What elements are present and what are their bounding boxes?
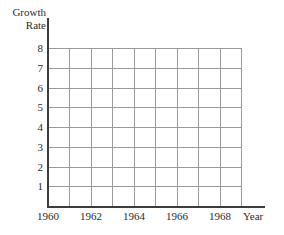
y-axis-tick-label: 6	[3, 83, 43, 94]
x-axis-tick-label: 1964	[112, 210, 156, 222]
y-axis-tick-label: 2	[3, 162, 43, 173]
x-axis-tick-label: 1968	[198, 210, 242, 222]
x-axis-title: Year	[243, 210, 263, 222]
gridline-horizontal	[48, 167, 242, 168]
x-axis-line	[47, 206, 265, 208]
plot-area	[48, 48, 242, 207]
x-axis-tick-label: 1962	[69, 210, 113, 222]
y-axis-tick-label: 7	[3, 63, 43, 74]
x-axis-tick-label: 1966	[155, 210, 199, 222]
gridline-horizontal	[48, 48, 242, 49]
x-axis-tick-label: 1960	[26, 210, 70, 222]
y-axis-tick-labels: 12345678	[0, 0, 43, 235]
y-axis-tick-label: 3	[3, 142, 43, 153]
gridline-horizontal	[48, 107, 242, 108]
y-axis-tick-label: 8	[3, 43, 43, 54]
gridline-horizontal	[48, 68, 242, 69]
y-axis-tick-label: 5	[3, 102, 43, 113]
gridline-horizontal	[48, 127, 242, 128]
y-axis-tick-label: 1	[3, 181, 43, 192]
y-axis-tick-label: 4	[3, 122, 43, 133]
y-axis-line	[47, 18, 49, 208]
gridline-horizontal	[48, 88, 242, 89]
gridline-horizontal	[48, 147, 242, 148]
chart-figure: Growth Rate 12345678 Year 19601962196419…	[0, 0, 284, 235]
gridline-horizontal	[48, 186, 242, 187]
